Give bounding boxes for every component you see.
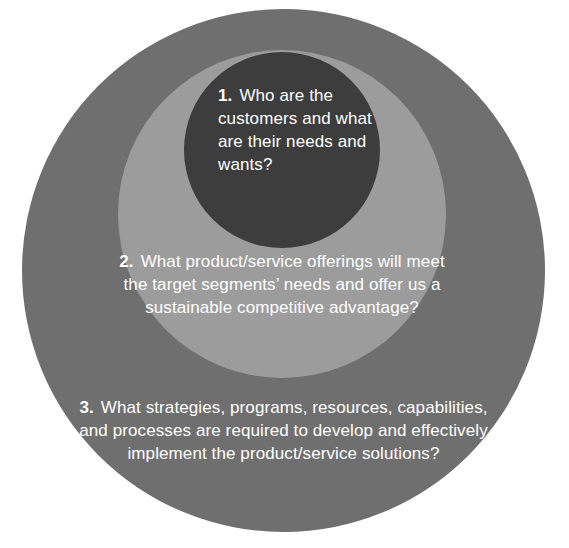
outer-circle-text-block: 3.What strategies, programs, resources, … (70, 396, 497, 465)
outer-circle-text: What strategies, programs, resources, ca… (79, 398, 488, 463)
middle-circle-text: What product/service offerings will meet… (124, 252, 445, 317)
inner-circle-text: Who are the customers and what are their… (218, 86, 372, 174)
concentric-circles-diagram: 3.What strategies, programs, resources, … (0, 0, 569, 548)
inner-circle-text-block: 1.Who are the customers and what are the… (184, 84, 380, 176)
outer-circle-number: 3. (79, 398, 93, 417)
middle-circle-number: 2. (119, 252, 133, 271)
inner-circle-number: 1. (218, 86, 232, 105)
middle-circle-text-block: 2.What product/service offerings will me… (118, 250, 446, 319)
